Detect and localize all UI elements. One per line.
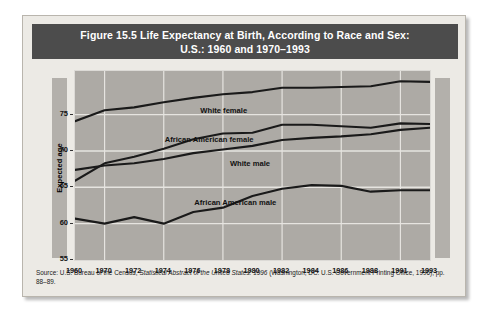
series-label-african-american-female: African American female	[165, 135, 254, 144]
figure-title-line-1: Figure 15.5 Life Expectancy at Birth, Ac…	[80, 28, 409, 42]
y-tick-label: 70	[46, 145, 68, 154]
y-tick-mark	[70, 223, 73, 224]
chart-area: Expected age 5560657075 1960197019721974…	[23, 64, 467, 269]
series-label-white-female: White female	[200, 106, 247, 115]
right-margin-band	[435, 78, 450, 258]
source-prefix: Source: U.S. Bureau of the Census,	[36, 269, 139, 276]
y-tick-mark	[70, 114, 73, 115]
source-title-italic: Statistical Abstract of the United State…	[139, 269, 267, 276]
y-tick-label: 65	[46, 181, 68, 190]
figure-title-line-2: U.S.: 1960 and 1970–1993	[180, 42, 310, 56]
y-tick-mark	[70, 259, 73, 260]
series-label-african-american-male: African American male	[194, 198, 276, 207]
y-tick-mark	[70, 186, 73, 187]
source-note: Source: U.S. Bureau of the Census, Stati…	[36, 268, 456, 286]
figure-title-bar: Figure 15.5 Life Expectancy at Birth, Ac…	[32, 24, 458, 59]
y-tick-label: 75	[46, 109, 68, 118]
y-tick-mark	[70, 150, 73, 151]
figure-card: Figure 15.5 Life Expectancy at Birth, Ac…	[22, 15, 466, 297]
series-label-white-male: White male	[230, 159, 270, 168]
y-tick-label: 55	[46, 254, 68, 263]
y-axis-label: Expected age	[52, 78, 67, 258]
series-line	[75, 123, 430, 180]
y-tick-label: 60	[46, 218, 68, 227]
